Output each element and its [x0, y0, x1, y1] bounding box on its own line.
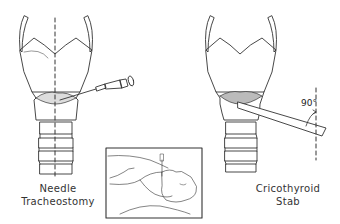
right-larynx-illustration — [206, 16, 327, 172]
left-caption-line1: Needle — [10, 182, 106, 195]
right-caption-line1: Cricothyroid — [240, 182, 336, 195]
needle-syringe-icon — [60, 76, 135, 100]
right-panel-caption: Cricothyroid Stab — [240, 182, 336, 208]
right-caption-line2: Stab — [240, 195, 336, 208]
inset-patient-illustration — [106, 148, 202, 218]
left-larynx-illustration — [20, 16, 135, 176]
left-panel-caption: Needle Tracheostomy — [10, 182, 106, 208]
left-caption-line2: Tracheostomy — [10, 195, 106, 208]
angle-label: 90° — [301, 98, 317, 108]
